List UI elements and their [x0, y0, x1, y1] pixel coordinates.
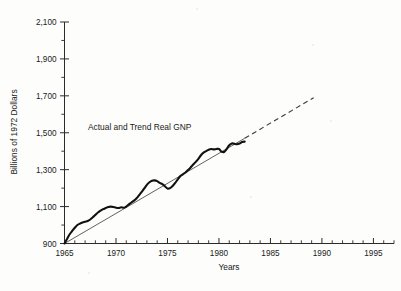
x-tick-label: 1980 [210, 249, 229, 258]
gnp-line-chart: 9001,1001,3001,5001,7001,9002,100 196519… [0, 0, 401, 291]
y-tick-label: 1,900 [36, 55, 57, 64]
y-tick-label: 1,300 [36, 166, 57, 175]
series-annotation-label: Actual and Trend Real GNP [88, 122, 192, 132]
y-tick-label: 1,700 [36, 92, 57, 101]
x-tick-label: 1985 [261, 249, 280, 258]
x-axis-ticks [65, 238, 395, 244]
x-tick-label: 1995 [364, 249, 383, 258]
x-axis-title: Years [218, 262, 239, 272]
x-axis-tick-labels: 1965197019751980198519901995 [55, 249, 383, 258]
x-tick-label: 1970 [107, 249, 126, 258]
y-tick-label: 1,500 [36, 129, 57, 138]
x-tick-label: 1990 [313, 249, 332, 258]
y-axis: 9001,1001,3001,5001,7001,9002,100 [36, 18, 69, 249]
x-axis: 1965197019751980198519901995 [55, 238, 394, 258]
y-tick-label: 2,100 [36, 18, 57, 27]
y-axis-tick-labels: 9001,1001,3001,5001,7001,9002,100 [36, 18, 57, 249]
actual-gnp-path [65, 142, 245, 244]
chart-figure: 9001,1001,3001,5001,7001,9002,100 196519… [0, 0, 401, 291]
trend-line-path [65, 138, 245, 243]
y-axis-title: Billions of 1972 Dollars [9, 89, 19, 174]
plot-series [65, 98, 314, 244]
y-tick-label: 900 [43, 240, 57, 249]
x-tick-label: 1975 [158, 249, 177, 258]
y-tick-label: 1,100 [36, 203, 57, 212]
x-tick-label: 1965 [55, 249, 74, 258]
trend-projection-path [245, 98, 314, 139]
